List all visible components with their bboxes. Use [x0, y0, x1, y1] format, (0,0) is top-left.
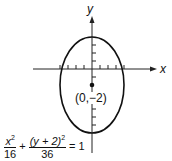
equals-one: = 1: [69, 140, 85, 152]
x-axis-label: x: [160, 63, 166, 75]
plus-sign: +: [19, 140, 25, 152]
fraction-x: x2 16: [4, 132, 16, 160]
y-axis-arrow-icon: [90, 16, 95, 23]
ellipse-equation: x2 16 + (y + 2)2 36 = 1: [4, 132, 85, 160]
center-label: (0,−2): [75, 92, 107, 104]
fraction-y: (y + 2)2 36: [29, 132, 66, 160]
center-point: [90, 83, 95, 88]
y-axis-label: y: [87, 3, 93, 15]
x-axis-arrow-icon: [150, 67, 157, 72]
